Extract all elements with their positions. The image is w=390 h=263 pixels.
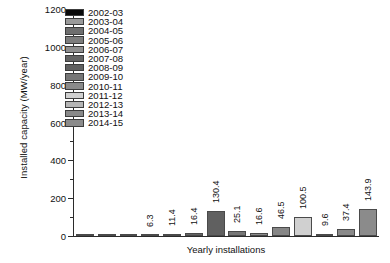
legend-swatch-icon bbox=[65, 9, 84, 16]
y-tick-major bbox=[68, 236, 73, 237]
legend-swatch-icon bbox=[65, 27, 84, 34]
legend-swatch-icon bbox=[65, 18, 84, 25]
y-tick-minor bbox=[70, 141, 73, 142]
bar bbox=[228, 231, 246, 236]
legend-swatch-icon bbox=[65, 82, 84, 89]
bar-slot: 143.9 bbox=[357, 9, 379, 236]
bar-value-label: 25.1 bbox=[232, 206, 242, 224]
y-axis-title: Installed capacity (MW/year) bbox=[18, 13, 29, 223]
bar bbox=[163, 234, 181, 236]
legend-swatch-icon bbox=[65, 119, 84, 126]
legend-swatch-icon bbox=[65, 110, 84, 117]
bar-value-label: 9.6 bbox=[319, 214, 329, 227]
bar-value-label: 46.5 bbox=[275, 202, 285, 220]
legend-swatch-icon bbox=[65, 92, 84, 99]
bar-slot: 11.4 bbox=[161, 9, 183, 236]
bar-value-label: 16.4 bbox=[188, 207, 198, 225]
bar-slot: 25.1 bbox=[227, 9, 249, 236]
legend-swatch-icon bbox=[65, 101, 84, 108]
bar-value-label: 100.5 bbox=[297, 186, 307, 209]
bar-value-label: 37.4 bbox=[341, 203, 351, 221]
y-tick-label: 1200 bbox=[45, 4, 66, 15]
bar bbox=[272, 227, 290, 236]
y-tick-minor bbox=[70, 217, 73, 218]
y-tick-major bbox=[68, 198, 73, 199]
bar-slot: 37.4 bbox=[335, 9, 357, 236]
bar bbox=[316, 234, 334, 236]
y-tick-label: 0 bbox=[61, 231, 66, 242]
bar-value-label: 11.4 bbox=[167, 209, 177, 226]
bar bbox=[250, 233, 268, 236]
bar bbox=[98, 234, 116, 236]
x-axis-title: Yearly installations bbox=[73, 244, 379, 255]
bar-chart: Installed capacity (MW/year) 02004006008… bbox=[0, 0, 390, 263]
bar bbox=[120, 234, 138, 236]
bar bbox=[294, 217, 312, 236]
y-tick-label: 1000 bbox=[45, 41, 66, 52]
bar-value-label: 143.9 bbox=[363, 178, 373, 201]
legend-swatch-icon bbox=[65, 73, 84, 80]
x-axis-line bbox=[73, 236, 379, 237]
legend-swatch-icon bbox=[65, 55, 84, 62]
bar-slot: 100.5 bbox=[292, 9, 314, 236]
legend-item-2014-15[interactable]: 2014-15 bbox=[65, 118, 123, 127]
bar bbox=[185, 233, 203, 236]
bar-slot: 9.6 bbox=[314, 9, 336, 236]
y-tick-minor bbox=[70, 179, 73, 180]
bar-slot: 16.4 bbox=[183, 9, 205, 236]
legend: 2002-032003-042004-052005-062006-072007-… bbox=[65, 8, 123, 127]
bar bbox=[337, 229, 355, 236]
y-tick-major bbox=[68, 160, 73, 161]
bar-slot: 130.4 bbox=[205, 9, 227, 236]
legend-swatch-icon bbox=[65, 36, 84, 43]
bar-value-label: 130.4 bbox=[210, 181, 220, 204]
legend-swatch-icon bbox=[65, 64, 84, 71]
legend-item-label: 2014-15 bbox=[88, 118, 123, 127]
y-tick-label: 200 bbox=[50, 193, 66, 204]
legend-swatch-icon bbox=[65, 46, 84, 53]
bar-value-label: 16.6 bbox=[254, 207, 264, 225]
bar-slot: 46.5 bbox=[270, 9, 292, 236]
bar-slot: 6.3 bbox=[139, 9, 161, 236]
bar bbox=[141, 234, 159, 236]
y-tick-label: 400 bbox=[50, 155, 66, 166]
bar bbox=[207, 211, 225, 236]
y-tick-label: 600 bbox=[50, 117, 66, 128]
bar-value-label: 6.3 bbox=[145, 214, 155, 227]
bar bbox=[359, 209, 377, 236]
y-tick-label: 800 bbox=[50, 79, 66, 90]
bar bbox=[76, 234, 94, 236]
bar-slot: 16.6 bbox=[248, 9, 270, 236]
